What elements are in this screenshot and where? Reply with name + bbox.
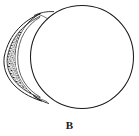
figure-panel: B xyxy=(0,0,139,136)
artifact-line-drawing xyxy=(0,0,139,136)
crescent-bottom-tip xyxy=(34,96,50,104)
figure-caption-label: B xyxy=(0,119,139,132)
main-circle-outline xyxy=(31,6,134,109)
